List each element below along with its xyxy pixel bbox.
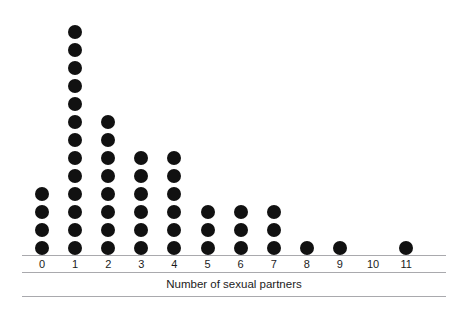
data-point-dot <box>300 241 314 255</box>
data-point-dot <box>68 25 82 39</box>
data-point-dot <box>167 241 181 255</box>
data-point-dot <box>101 169 115 183</box>
data-point-dot <box>68 151 82 165</box>
x-axis-tick-label: 7 <box>261 256 287 272</box>
x-axis-tick-label: 3 <box>128 256 154 272</box>
data-point-dot <box>35 205 49 219</box>
x-axis-tick-label: 1 <box>62 256 88 272</box>
x-axis-tick-label: 4 <box>161 256 187 272</box>
data-point-dot <box>234 241 248 255</box>
data-point-dot <box>68 223 82 237</box>
data-point-dot <box>68 241 82 255</box>
x-axis-tick-label: 8 <box>294 256 320 272</box>
data-point-dot <box>134 205 148 219</box>
x-axis-tick-label: 5 <box>195 256 221 272</box>
data-point-dot <box>101 151 115 165</box>
x-axis-tick-label: 2 <box>95 256 121 272</box>
data-point-dot <box>134 187 148 201</box>
data-point-dot <box>68 187 82 201</box>
data-point-dot <box>68 79 82 93</box>
data-point-dot <box>134 241 148 255</box>
data-point-dot <box>267 241 281 255</box>
dot-column <box>398 237 414 255</box>
data-point-dot <box>101 115 115 129</box>
data-point-dot <box>68 205 82 219</box>
dot-column <box>166 147 182 255</box>
data-point-dot <box>267 223 281 237</box>
axis-rule-bottom <box>22 296 446 297</box>
data-point-dot <box>267 205 281 219</box>
data-point-dot <box>167 205 181 219</box>
data-point-dot <box>167 223 181 237</box>
dot-plot-figure: 01234567891011 Number of sexual partners <box>0 0 459 310</box>
data-point-dot <box>101 241 115 255</box>
dot-column <box>34 183 50 255</box>
x-axis-tick-labels: 01234567891011 <box>22 256 446 272</box>
data-point-dot <box>134 223 148 237</box>
data-point-dot <box>333 241 347 255</box>
data-point-dot <box>101 223 115 237</box>
x-axis-tick-label: 6 <box>228 256 254 272</box>
x-axis-title: Number of sexual partners <box>22 274 446 295</box>
data-point-dot <box>101 205 115 219</box>
dot-column <box>133 147 149 255</box>
data-point-dot <box>68 133 82 147</box>
data-point-dot <box>68 115 82 129</box>
data-point-dot <box>68 61 82 75</box>
x-axis-tick-label: 11 <box>393 256 419 272</box>
x-axis-tick-label: 9 <box>327 256 353 272</box>
data-point-dot <box>35 223 49 237</box>
data-point-dot <box>167 187 181 201</box>
dot-column <box>100 111 116 255</box>
data-point-dot <box>101 133 115 147</box>
dot-column <box>332 237 348 255</box>
x-axis-tick-label: 10 <box>360 256 386 272</box>
data-point-dot <box>101 187 115 201</box>
dot-column <box>67 21 83 255</box>
data-point-dot <box>399 241 413 255</box>
data-point-dot <box>167 169 181 183</box>
data-point-dot <box>234 223 248 237</box>
data-point-dot <box>35 241 49 255</box>
dot-plot-plot-area <box>0 0 459 255</box>
data-point-dot <box>167 151 181 165</box>
dot-column <box>200 201 216 255</box>
data-point-dot <box>134 169 148 183</box>
data-point-dot <box>68 43 82 57</box>
data-point-dot <box>201 205 215 219</box>
data-point-dot <box>134 151 148 165</box>
data-point-dot <box>201 223 215 237</box>
dot-column <box>266 201 282 255</box>
dot-column <box>233 201 249 255</box>
axis-rule-middle <box>22 272 446 273</box>
data-point-dot <box>68 169 82 183</box>
data-point-dot <box>234 205 248 219</box>
x-axis-tick-label: 0 <box>29 256 55 272</box>
data-point-dot <box>35 187 49 201</box>
data-point-dot <box>68 97 82 111</box>
data-point-dot <box>201 241 215 255</box>
dot-column <box>299 237 315 255</box>
